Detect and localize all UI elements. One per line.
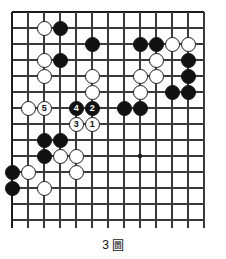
black-stone — [133, 101, 148, 116]
white-stone — [133, 85, 148, 100]
go-board: 12345 — [0, 0, 226, 228]
stone-move-number: 5 — [42, 104, 47, 113]
black-stone — [149, 37, 164, 52]
black-stone — [53, 133, 68, 148]
numbered-stone-1: 1 — [85, 117, 100, 132]
black-stone — [165, 85, 180, 100]
caption-number: 3 — [102, 238, 109, 252]
white-stone — [37, 21, 52, 36]
white-stone — [37, 53, 52, 68]
black-stone — [53, 53, 68, 68]
white-stone — [53, 149, 68, 164]
stone-move-number: 2 — [90, 104, 95, 113]
black-stone — [37, 149, 52, 164]
white-stone — [149, 53, 164, 68]
white-stone — [69, 149, 84, 164]
figure-caption: 3 圖 — [0, 230, 226, 259]
black-stone — [181, 53, 196, 68]
black-stone — [53, 21, 68, 36]
stone-layer: 12345 — [0, 0, 226, 228]
stone-move-number: 1 — [90, 120, 95, 129]
black-stone — [117, 101, 132, 116]
black-stone — [5, 165, 20, 180]
numbered-stone-3: 3 — [69, 117, 84, 132]
numbered-stone-5: 5 — [37, 101, 52, 116]
numbered-stone-2: 2 — [85, 101, 100, 116]
white-stone — [149, 69, 164, 84]
white-stone — [37, 181, 52, 196]
white-stone — [165, 37, 180, 52]
white-stone — [133, 69, 148, 84]
white-stone — [181, 37, 196, 52]
black-stone — [181, 85, 196, 100]
caption-glyph: 圖 — [112, 236, 124, 253]
black-stone — [85, 37, 100, 52]
black-stone — [5, 181, 20, 196]
white-stone — [85, 69, 100, 84]
white-stone — [85, 85, 100, 100]
stone-move-number: 4 — [74, 104, 79, 113]
black-stone — [133, 37, 148, 52]
white-stone — [69, 165, 84, 180]
numbered-stone-4: 4 — [69, 101, 84, 116]
go-diagram-figure: 12345 3 圖 — [0, 0, 226, 259]
black-stone — [37, 133, 52, 148]
stone-move-number: 3 — [74, 120, 79, 129]
white-stone — [21, 165, 36, 180]
white-stone — [37, 69, 52, 84]
black-stone — [181, 69, 196, 84]
white-stone — [21, 101, 36, 116]
